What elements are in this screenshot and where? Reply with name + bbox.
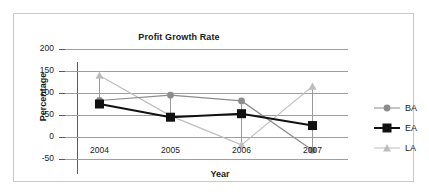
legend-marker-square-icon xyxy=(374,123,400,133)
x-tick-label: 2007 xyxy=(291,145,335,155)
legend-label: EA xyxy=(405,123,417,133)
x-tick-label: 2004 xyxy=(78,145,122,155)
legend-label: LA xyxy=(405,143,416,153)
legend-item-ba[interactable]: BA xyxy=(374,98,424,118)
legend-item-la[interactable]: LA xyxy=(374,138,424,158)
legend-marker-circle-icon xyxy=(374,103,400,113)
x-tick-label: 2006 xyxy=(220,145,264,155)
series-line-ea xyxy=(100,104,313,126)
x-axis-title: Year xyxy=(78,169,362,179)
x-tick-label: 2005 xyxy=(149,145,193,155)
legend-marker-triangle-icon xyxy=(374,143,400,153)
chart-frame: Profit Growth Rate Percentage 2001501005… xyxy=(13,13,414,182)
legend-label: BA xyxy=(405,103,417,113)
series-canvas xyxy=(14,14,415,183)
legend-item-ea[interactable]: EA xyxy=(374,118,424,138)
series-line-ba xyxy=(100,95,313,150)
chart-legend: BAEALA xyxy=(374,98,424,158)
